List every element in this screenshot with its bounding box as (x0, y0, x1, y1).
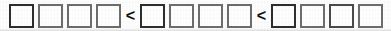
number-group-3 (271, 4, 383, 28)
digit-box-1-4[interactable] (96, 4, 121, 28)
digit-box-1-1[interactable] (9, 4, 34, 28)
digit-box-3-1[interactable] (271, 4, 296, 28)
digit-box-2-4[interactable] (227, 4, 252, 28)
digit-box-2-1[interactable] (140, 4, 165, 28)
number-group-1 (9, 4, 121, 28)
left-margin-spacer (0, 15, 9, 16)
less-than-sign-1: < (121, 4, 139, 28)
number-group-2 (140, 4, 252, 28)
less-than-sign-2: < (252, 4, 270, 28)
digit-box-3-3[interactable] (329, 4, 354, 28)
digit-box-1-3[interactable] (67, 4, 92, 28)
digit-box-3-2[interactable] (300, 4, 325, 28)
digit-box-1-2[interactable] (38, 4, 63, 28)
digit-box-2-2[interactable] (169, 4, 194, 28)
digit-box-2-3[interactable] (198, 4, 223, 28)
comparison-worksheet-row: < < (0, 0, 391, 31)
digit-box-3-4[interactable] (358, 4, 383, 28)
comparison-expression: < < (0, 0, 391, 31)
